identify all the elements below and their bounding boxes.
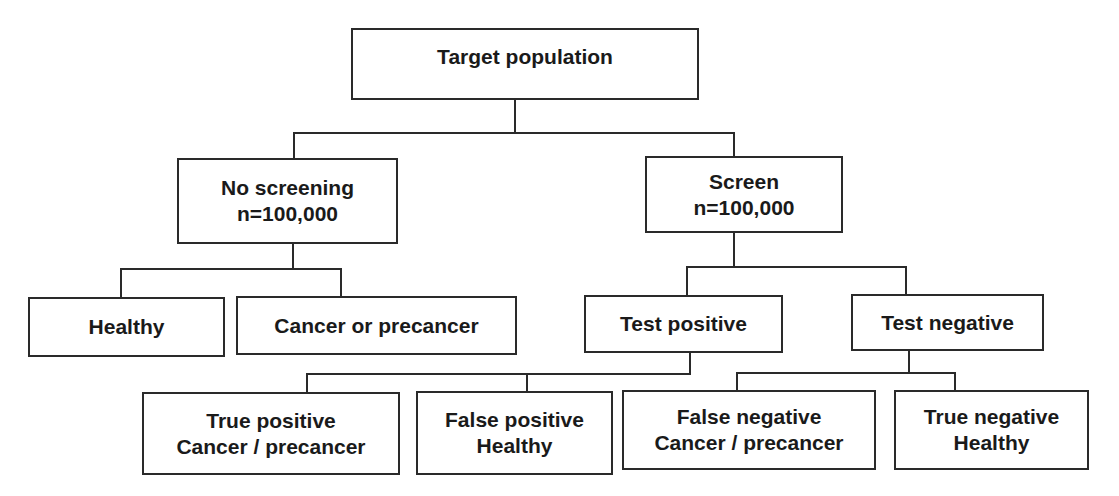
false-positive-sublabel: Healthy — [477, 433, 553, 459]
connector-to-false-negative — [736, 372, 738, 391]
no-screening-n: n=100,000 — [237, 201, 338, 227]
cancer-or-precancer-box: Cancer or precancer — [236, 296, 517, 355]
test-positive-label: Test positive — [620, 311, 747, 337]
true-negative-box: True negative Healthy — [894, 390, 1089, 470]
true-negative-sublabel: Healthy — [954, 430, 1030, 456]
false-negative-box: False negative Cancer / precancer — [622, 390, 876, 470]
screen-box: Screen n=100,000 — [645, 156, 843, 233]
connector-root-horizontal — [293, 132, 735, 134]
test-negative-label: Test negative — [881, 310, 1014, 336]
connector-root-stem — [514, 99, 516, 134]
test-positive-box: Test positive — [584, 295, 783, 353]
true-positive-box: True positive Cancer / precancer — [142, 392, 400, 475]
false-negative-sublabel: Cancer / precancer — [654, 430, 843, 456]
connector-to-screen — [733, 132, 735, 157]
false-negative-label: False negative — [677, 404, 822, 430]
true-negative-label: True negative — [924, 404, 1059, 430]
false-positive-label: False positive — [445, 407, 584, 433]
connector-to-test-negative — [905, 266, 907, 295]
connector-to-healthy — [120, 268, 122, 298]
connector-to-no-screening — [293, 132, 295, 159]
test-negative-box: Test negative — [851, 294, 1044, 351]
no-screening-box: No screening n=100,000 — [177, 158, 398, 244]
connector-test-positive-stem — [689, 352, 691, 375]
connector-test-positive-horizontal — [306, 373, 691, 375]
connector-to-cancer — [340, 268, 342, 297]
target-population-label: Target population — [437, 44, 613, 70]
connector-to-false-positive — [526, 373, 528, 392]
screen-label: Screen — [709, 169, 779, 195]
true-positive-sublabel: Cancer / precancer — [176, 434, 365, 460]
screen-n: n=100,000 — [693, 195, 794, 221]
connector-to-true-positive — [306, 373, 308, 393]
true-positive-label: True positive — [206, 408, 336, 434]
connector-to-test-positive — [686, 266, 688, 296]
cancer-or-precancer-label: Cancer or precancer — [274, 313, 478, 339]
connector-test-negative-horizontal — [736, 372, 956, 374]
connector-no-screening-horizontal — [120, 268, 342, 270]
connector-no-screening-stem — [292, 243, 294, 270]
false-positive-box: False positive Healthy — [416, 391, 613, 475]
connector-screen-stem — [733, 232, 735, 268]
target-population-box: Target population — [351, 28, 699, 100]
connector-test-negative-stem — [908, 350, 910, 374]
healthy-box: Healthy — [28, 297, 225, 357]
connector-to-true-negative — [954, 372, 956, 391]
connector-screen-horizontal — [686, 266, 907, 268]
healthy-label: Healthy — [89, 314, 165, 340]
no-screening-label: No screening — [221, 175, 354, 201]
